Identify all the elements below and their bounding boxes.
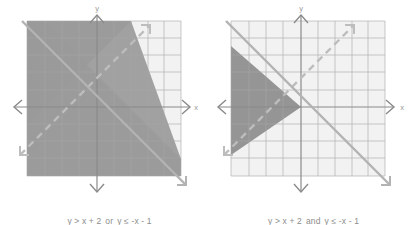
plot-area-or: y x [0,0,204,200]
y-axis-label: y [95,4,99,13]
caption-or-graph: y > x + 2ory ≤ -x - 1 [0,203,204,225]
x-axis-label: x [400,103,404,112]
panel-and-graph: y x y > x + 2andy ≤ -x - 1 [204,0,408,225]
caption-operator: and [302,216,325,225]
caption-right-expression: y ≤ -x - 1 [325,216,360,225]
x-axis-label: x [194,103,198,112]
plot-area-and: y x [204,0,408,200]
caption-and-graph: y > x + 2andy ≤ -x - 1 [204,203,408,225]
caption-left-expression: y > x + 2 [268,216,302,225]
inequality-figure-row: y x y > x + 2ory ≤ -x - 1 [0,0,409,225]
caption-operator: or [101,216,117,225]
panel-or-graph: y x y > x + 2ory ≤ -x - 1 [0,0,204,225]
caption-left-expression: y > x + 2 [67,216,101,225]
y-axis-label: y [299,4,303,13]
caption-right-expression: y ≤ -x - 1 [117,216,152,225]
